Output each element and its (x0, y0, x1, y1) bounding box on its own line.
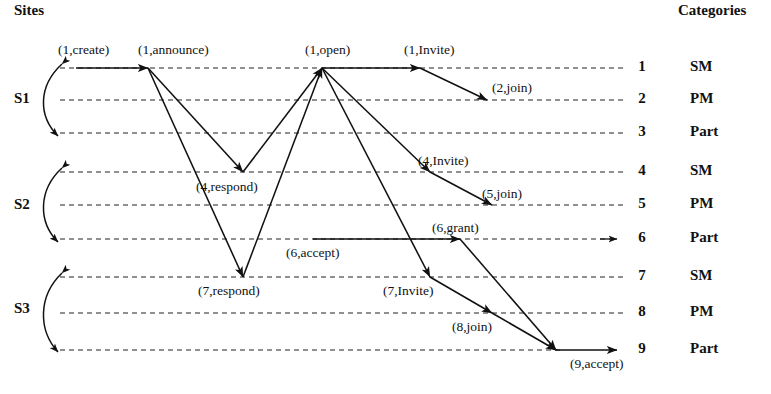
row-number-2: 2 (630, 90, 654, 107)
msg-4-respond (243, 68, 322, 172)
msg-1-announce (148, 68, 243, 172)
messages-group (76, 68, 556, 350)
categories-header: Categories (678, 2, 746, 19)
category-label-4: SM (690, 162, 750, 179)
lifelines-group (60, 68, 623, 350)
site-brace-s3 (43, 273, 62, 352)
site-label-s1: S1 (14, 90, 30, 107)
category-label-7: SM (690, 267, 750, 284)
event-label-8-join: (8,join) (452, 319, 492, 335)
event-label-1-announce: (1,announce) (138, 42, 209, 58)
category-label-2: PM (690, 90, 750, 107)
event-label-1-invite: (1,Invite) (404, 42, 455, 58)
site-brace-s1 (43, 64, 62, 136)
category-label-5: PM (690, 195, 750, 212)
row-number-3: 3 (630, 123, 654, 140)
event-label-4-respond: (4,respond) (196, 179, 258, 195)
event-label-4-invite: (4,Invite) (418, 153, 469, 169)
row-number-1: 1 (630, 58, 654, 75)
msg-9-accept (492, 313, 556, 350)
event-label-1-create: (1,create) (58, 42, 109, 58)
site-brace-s2 (43, 168, 62, 242)
event-label-1-open: (1,open) (305, 42, 350, 58)
event-label-5-join: (5,join) (482, 186, 522, 202)
row-number-4: 4 (630, 162, 654, 179)
category-label-8: PM (690, 303, 750, 320)
event-label-2-join: (2,join) (492, 80, 532, 96)
row-number-7: 7 (630, 267, 654, 284)
category-label-3: Part (690, 123, 750, 140)
category-label-9: Part (690, 340, 750, 357)
site-label-s3: S3 (14, 300, 30, 317)
msg-8-join (430, 277, 492, 313)
event-label-7-invite: (7,Invite) (383, 283, 434, 299)
event-label-9-accept: (9,accept) (570, 356, 624, 372)
event-label-6-grant: (6,grant) (432, 220, 479, 236)
msg-2-join (420, 68, 487, 100)
site-label-s2: S2 (14, 196, 30, 213)
row-number-5: 5 (630, 195, 654, 212)
category-label-6: Part (690, 229, 750, 246)
site-braces-group (43, 64, 62, 352)
category-label-1: SM (690, 58, 750, 75)
row-number-6: 6 (630, 229, 654, 246)
row-number-9: 9 (630, 340, 654, 357)
msg-4-invite (322, 68, 430, 172)
event-label-6-accept: (6,accept) (286, 245, 340, 261)
diagram-canvas (0, 0, 771, 394)
sites-header: Sites (14, 2, 44, 19)
event-label-7-respond: (7,respond) (198, 283, 260, 299)
row-number-8: 8 (630, 303, 654, 320)
